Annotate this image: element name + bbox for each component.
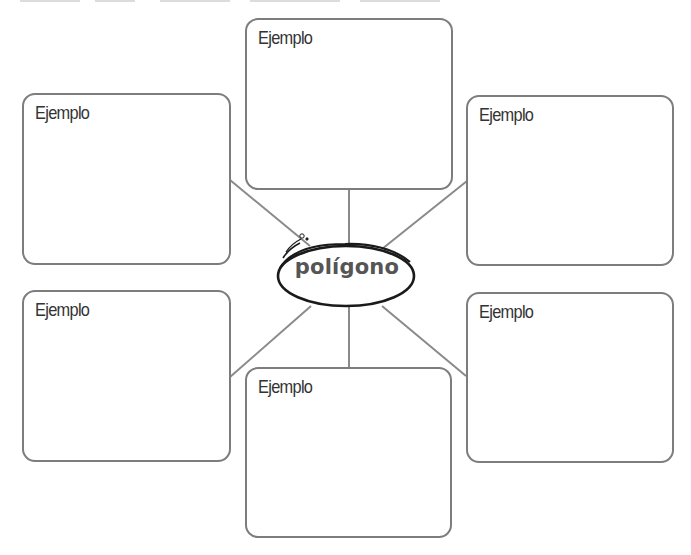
example-box-bottom-left[interactable]: Ejemplo bbox=[22, 290, 231, 462]
example-box-bottom-right[interactable]: Ejemplo bbox=[466, 292, 674, 463]
example-label: Ejemplo bbox=[258, 376, 312, 398]
center-concept-label: polígono bbox=[277, 255, 417, 279]
example-label: Ejemplo bbox=[479, 104, 533, 126]
example-label: Ejemplo bbox=[35, 102, 89, 124]
example-label: Ejemplo bbox=[479, 301, 533, 323]
example-label: Ejemplo bbox=[258, 27, 312, 49]
connector-top-right bbox=[382, 181, 467, 249]
example-box-bottom-center[interactable]: Ejemplo bbox=[245, 367, 452, 538]
example-label: Ejemplo bbox=[35, 299, 89, 321]
example-box-top-left[interactable]: Ejemplo bbox=[22, 93, 231, 265]
connector-bottom-right bbox=[382, 306, 466, 376]
example-box-top-right[interactable]: Ejemplo bbox=[466, 95, 674, 266]
example-box-top-center[interactable]: Ejemplo bbox=[245, 18, 453, 190]
